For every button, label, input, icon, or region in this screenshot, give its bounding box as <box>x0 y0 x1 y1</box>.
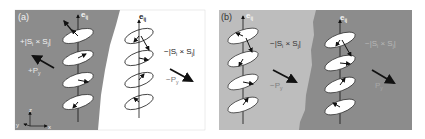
panel-b-label: (b) <box>221 12 232 22</box>
chirality-label-b-right: −|Si × Sj| <box>365 39 396 49</box>
panel-b: (b) eij −|Si × Sj| −Py eij <box>219 10 412 130</box>
chirality-label-a-right: −|Si × Sj| <box>164 47 195 57</box>
panel-a: (a) eij +|Si × Sj| +Py z x y <box>15 10 205 130</box>
chirality-label-b-left: −|Si × Sj| <box>270 39 301 49</box>
x-axis-label: x <box>48 124 51 130</box>
y-axis-label: y <box>16 122 19 128</box>
figure-canvas: (a) eij +|Si × Sj| +Py z x y <box>0 0 425 139</box>
panel-a-label: (a) <box>18 12 29 22</box>
chirality-label-a-left: +|Si × Sj| <box>20 37 51 47</box>
z-axis-label: z <box>29 107 32 113</box>
panel-b-right-region <box>299 10 412 130</box>
